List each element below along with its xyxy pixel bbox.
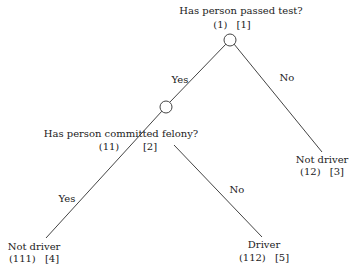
node-4-label-box: Not driver (8, 241, 61, 253)
node-5-label: Driver (248, 239, 280, 250)
edge-2-5 (174, 145, 262, 237)
node-1-label: Has person passed test? (179, 5, 302, 16)
node-3-path-code: (12) (300, 166, 321, 177)
node-1-path-code: (1) (213, 19, 227, 30)
node-4-label: Not driver (8, 241, 61, 252)
edge-1-3 (234, 44, 322, 152)
node-3-index: (12) [3] (300, 166, 344, 178)
decision-node-circle-1 (224, 34, 236, 46)
edge-1-2-label: Yes (172, 74, 189, 86)
edge-1-3-label: No (280, 72, 295, 84)
node-5-label-box: Driver (248, 239, 280, 251)
node-2-question: Has person committed felony? (44, 128, 198, 140)
edge-2-5-label: No (230, 184, 245, 196)
node-1-index: (1) [1] (213, 19, 251, 31)
node-5-index: (112) [5] (239, 252, 289, 264)
node-2-label: Has person committed felony? (44, 128, 198, 139)
node-2-number: [2] (143, 141, 157, 152)
node-4-path-code: (111) (9, 253, 36, 264)
node-3-label: Not driver (296, 154, 349, 165)
node-2-path-code-box: (11) (99, 141, 120, 153)
node-5-path-code: (112) (239, 252, 266, 263)
node-1-question: Has person passed test? (179, 5, 302, 17)
edge-1-2 (170, 44, 226, 102)
decision-node-circle-2 (160, 101, 172, 113)
node-4-index: (111) [4] (9, 253, 59, 265)
node-1-number: [1] (237, 19, 251, 30)
node-5-number: [5] (275, 252, 289, 263)
edge-2-4-label: Yes (59, 193, 76, 205)
node-2-number-box: [2] (143, 141, 157, 153)
node-3-label-box: Not driver (296, 154, 349, 166)
node-4-number: [4] (45, 253, 59, 264)
node-3-number: [3] (330, 166, 344, 177)
node-2-path-code: (11) (99, 141, 120, 152)
